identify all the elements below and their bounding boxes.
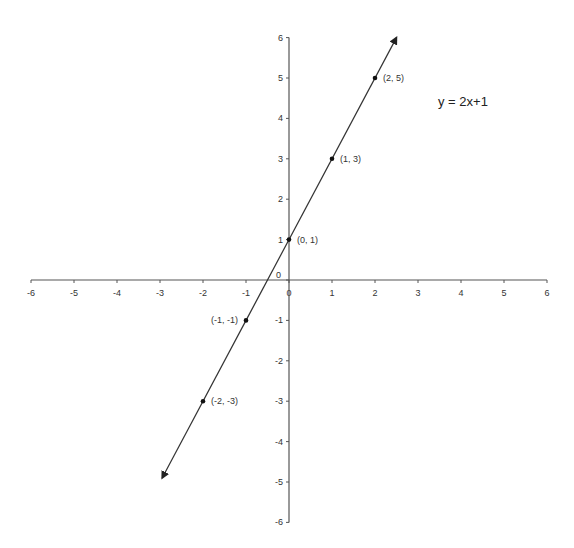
x-tick-label: -4: [113, 288, 121, 298]
y-tick-label: 2: [278, 194, 283, 204]
y-tick-label: 4: [278, 113, 283, 123]
x-tick-label: 5: [501, 288, 506, 298]
x-tick-label: -3: [156, 288, 164, 298]
y-tick-label: 0: [276, 270, 281, 280]
y-tick-label: -3: [275, 396, 283, 406]
y-tick-label: 6: [278, 33, 283, 43]
data-point-label: (-1, -1): [211, 315, 238, 325]
data-point-marker: [330, 157, 335, 162]
data-points: (-2, -3)(-1, -1)(0, 1)(1, 3)(2, 5): [201, 73, 404, 406]
x-tick-label: 2: [372, 288, 377, 298]
y-tick-label: 3: [278, 154, 283, 164]
x-tick-label: 3: [415, 288, 420, 298]
data-point-label: (1, 3): [340, 154, 361, 164]
y-tick-label: -1: [275, 315, 283, 325]
x-tick-label: 4: [458, 288, 463, 298]
x-tick-label: 6: [544, 288, 549, 298]
y-tick-label: -2: [275, 356, 283, 366]
data-point-label: (0, 1): [297, 235, 318, 245]
linear-function-plot: -6-5-4-3-2-10123456 -6-5-4-3-2-10123456 …: [0, 0, 574, 548]
data-point-marker: [287, 237, 292, 242]
data-point-label: (-2, -3): [211, 396, 238, 406]
x-tick-label: -6: [27, 288, 35, 298]
y-tick-label: -6: [275, 517, 283, 527]
data-point-marker: [373, 76, 378, 81]
function-line: [162, 38, 396, 478]
x-tick-label: -1: [242, 288, 250, 298]
data-point-label: (2, 5): [383, 73, 404, 83]
x-tick-label: -5: [70, 288, 78, 298]
y-tick-label: -5: [275, 477, 283, 487]
y-tick-label: -4: [275, 437, 283, 447]
x-tick-label: 1: [329, 288, 334, 298]
y-tick-label: 1: [278, 235, 283, 245]
data-point-marker: [244, 318, 249, 323]
data-point-marker: [201, 399, 206, 404]
x-tick-label: -2: [199, 288, 207, 298]
y-tick-label: 5: [278, 73, 283, 83]
x-axis: -6-5-4-3-2-10123456: [27, 280, 550, 298]
equation-label: y = 2x+1: [438, 94, 488, 109]
